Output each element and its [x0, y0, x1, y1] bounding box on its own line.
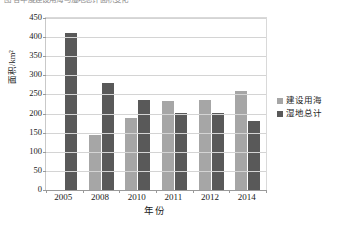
bar-group-2008	[83, 18, 120, 190]
plot-area	[45, 17, 267, 191]
y-tick-label-0: 0	[16, 185, 42, 194]
bar-建设用海-2010[interactable]	[125, 118, 137, 190]
x-tick-label-2014: 2014	[228, 192, 265, 203]
x-tick-label-2008: 2008	[82, 192, 119, 203]
x-axis-tick-labels: 200520082010201120122014	[45, 192, 265, 203]
gridline-200	[46, 114, 266, 115]
bar-group-2012	[193, 18, 230, 190]
y-tick-mark-350	[43, 56, 46, 57]
gridline-150	[46, 133, 266, 134]
legend-swatch-icon-建设用海	[277, 98, 283, 104]
gridline-350	[46, 56, 266, 57]
figure-caption-clipped: 图 各年度建设用海与湿地总计面积变化	[4, 0, 204, 4]
x-tick-label-2011: 2011	[155, 192, 192, 203]
bar-建设用海-2008[interactable]	[89, 135, 101, 190]
y-tick-label-300: 300	[16, 70, 42, 79]
gridline-100	[46, 152, 266, 153]
gridline-400	[46, 37, 266, 38]
y-tick-label-200: 200	[16, 108, 42, 117]
y-tick-mark-50	[43, 171, 46, 172]
y-tick-label-150: 150	[16, 127, 42, 136]
legend-label-湿地总计: 湿地总计	[286, 109, 322, 118]
legend-item-湿地总计[interactable]: 湿地总计	[277, 109, 322, 118]
y-axis-tick-labels: 050100150200250300350400450	[16, 12, 42, 194]
x-tick-label-2012: 2012	[192, 192, 229, 203]
x-tick-label-2010: 2010	[118, 192, 155, 203]
gridline-450	[46, 18, 266, 19]
legend-label-建设用海: 建设用海	[286, 96, 322, 105]
bar-湿地总计-2008[interactable]	[102, 83, 114, 190]
y-tick-mark-250	[43, 94, 46, 95]
y-tick-mark-200	[43, 114, 46, 115]
y-tick-label-350: 350	[16, 51, 42, 60]
y-tick-mark-450	[43, 18, 46, 19]
gridline-300	[46, 75, 266, 76]
y-tick-label-400: 400	[16, 32, 42, 41]
y-tick-mark-400	[43, 37, 46, 38]
bar-湿地总计-2014[interactable]	[248, 121, 260, 190]
y-tick-label-450: 450	[16, 13, 42, 22]
legend-swatch-icon-湿地总计	[277, 111, 283, 117]
y-tick-mark-150	[43, 133, 46, 134]
bar-建设用海-2014[interactable]	[235, 91, 247, 190]
legend-item-建设用海[interactable]: 建设用海	[277, 96, 322, 105]
bar-chart-figure: 图 各年度建设用海与湿地总计面积变化 面积/km² 05010015020025…	[0, 0, 349, 232]
bar-group-2005	[46, 18, 83, 190]
y-tick-mark-300	[43, 75, 46, 76]
y-tick-label-250: 250	[16, 89, 42, 98]
bar-group-2014	[229, 18, 266, 190]
x-tick-label-2005: 2005	[45, 192, 82, 203]
y-tick-label-100: 100	[16, 146, 42, 155]
y-tick-mark-100	[43, 152, 46, 153]
y-tick-label-50: 50	[16, 165, 42, 174]
gridline-50	[46, 171, 266, 172]
x-tick-mark-6	[266, 190, 267, 193]
x-axis-title: 年份	[45, 206, 265, 217]
bar-group-2011	[156, 18, 193, 190]
gridline-250	[46, 94, 266, 95]
bar-group-2010	[119, 18, 156, 190]
bar-groups	[46, 18, 266, 190]
chart-legend: 建设用海湿地总计	[277, 96, 322, 118]
